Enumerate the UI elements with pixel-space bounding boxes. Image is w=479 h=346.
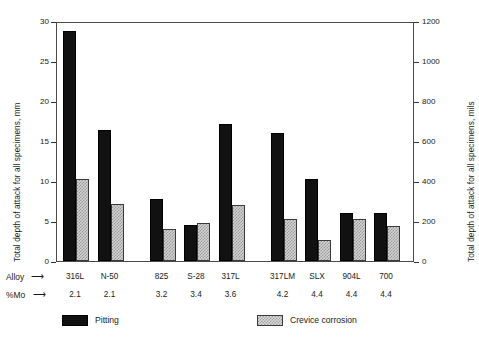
- y-tick-mark-right: [414, 22, 419, 23]
- legend-item-pitting: Pitting: [62, 313, 119, 327]
- caption-strip: [60, 338, 440, 344]
- plot-area: [56, 22, 414, 262]
- mo-value-700: 4.4: [360, 290, 412, 299]
- y-tick-label-right: 1000: [422, 58, 448, 66]
- chart-figure: Total depth of attack for all specimens,…: [0, 0, 479, 346]
- bar-317lm-pitting: [271, 133, 284, 261]
- y-tick-mark-right: [414, 102, 419, 103]
- bar-slx-pitting: [305, 179, 318, 261]
- bar-s-28-crevice: [197, 223, 210, 261]
- bar-904l-pitting: [340, 213, 353, 261]
- bar-317lm-crevice: [284, 219, 297, 261]
- y-tick-label-left: 5: [27, 218, 49, 226]
- y-tick-label-right: 600: [422, 138, 448, 146]
- bar-slx-crevice: [318, 240, 331, 261]
- mo-value-317l: 3.6: [205, 290, 257, 299]
- y-tick-label-left: 25: [27, 58, 49, 66]
- y-tick-label-right: 200: [422, 218, 448, 226]
- mo-row-label: %Mo: [6, 290, 25, 300]
- bar-317l-pitting: [219, 124, 232, 261]
- alloy-row-arrow-icon: ⟶: [31, 272, 44, 281]
- bar-316l-pitting: [63, 31, 76, 261]
- y-tick-label-left: 20: [27, 98, 49, 106]
- bar-n-50-pitting: [98, 130, 111, 261]
- bar-n-50-crevice: [111, 204, 124, 261]
- bar-s-28-pitting: [184, 225, 197, 261]
- y-tick-label-left: 30: [27, 18, 49, 26]
- y-tick-label-right: 400: [422, 178, 448, 186]
- y-axis-label-right: Total depth of attack for all specimens,…: [467, 101, 476, 262]
- y-axis-label-left: Total depth of attack for all specimens,…: [13, 103, 22, 262]
- bar-316l-crevice: [76, 179, 89, 261]
- mo-value-n-50: 2.1: [84, 290, 136, 299]
- bar-825-pitting: [150, 199, 163, 261]
- bar-317l-crevice: [232, 205, 245, 261]
- legend-swatch-pitting-icon: [62, 315, 88, 326]
- y-tick-mark-right: [414, 222, 419, 223]
- y-tick-label-left: 0: [27, 258, 49, 266]
- y-tick-mark-right: [414, 62, 419, 63]
- alloy-label-n-50: N-50: [84, 272, 136, 281]
- alloy-label-700: 700: [360, 272, 412, 281]
- y-tick-mark-right: [414, 142, 419, 143]
- bar-904l-crevice: [353, 219, 366, 261]
- alloy-row-label: Alloy: [6, 272, 24, 282]
- y-tick-label-right: 800: [422, 98, 448, 106]
- legend-label: Crevice corrosion: [290, 315, 357, 325]
- bar-700-pitting: [374, 213, 387, 261]
- y-tick-mark-right: [414, 262, 419, 263]
- y-tick-mark-left: [51, 262, 56, 263]
- y-tick-label-left: 15: [27, 138, 49, 146]
- y-tick-label-left: 10: [27, 178, 49, 186]
- y-tick-mark-right: [414, 182, 419, 183]
- mo-row-arrow-icon: ⟶: [33, 290, 46, 299]
- bar-825-crevice: [163, 229, 176, 261]
- legend-label: Pitting: [95, 315, 119, 325]
- alloy-label-317l: 317L: [205, 272, 257, 281]
- y-tick-label-right: 0: [422, 258, 448, 266]
- y-tick-label-right: 1200: [422, 18, 448, 26]
- legend-swatch-crevice-icon: [257, 315, 283, 326]
- bar-700-crevice: [387, 226, 400, 261]
- legend-item-crevice: Crevice corrosion: [257, 313, 357, 327]
